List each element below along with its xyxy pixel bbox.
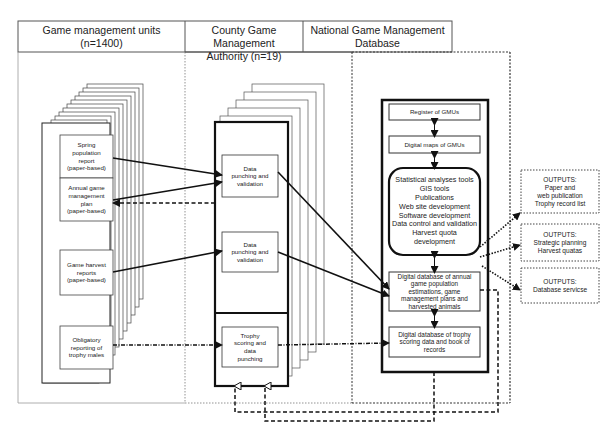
header-line: National Game Management bbox=[310, 24, 444, 36]
header-line: Database bbox=[355, 37, 400, 49]
data-punching-box-1: Datapunching andvalidation bbox=[222, 155, 278, 197]
column-header-gmu: Game management units (n=1400) bbox=[18, 24, 185, 50]
trophy-database-box: Digital database of trophyscoring data a… bbox=[389, 327, 480, 357]
digital-maps-box: Digital maps of GMUs bbox=[389, 136, 480, 153]
trophy-scoring-box: Trophyscoring anddatapunching bbox=[222, 327, 278, 367]
header-line: Game management units bbox=[43, 24, 161, 36]
trophy-males-reporting-box: Obligatoryreporting oftrophy males bbox=[60, 326, 113, 369]
game-harvest-reports-box: Game harvestreports(paper-based) bbox=[60, 250, 113, 295]
annual-database-box: Digital database of annualgame populatio… bbox=[389, 272, 480, 311]
column-header-national: National Game Management Database bbox=[303, 24, 452, 50]
output-database-services-box: OUTPUTS:Database servicse bbox=[521, 268, 599, 303]
register-of-gmus-box: Register of GMUs bbox=[389, 104, 480, 120]
header-line: (n=1400) bbox=[80, 37, 122, 49]
output-publication-box: OUTPUTS:Paper andweb publicationTrophy r… bbox=[521, 170, 599, 213]
output-planning-box: OUTPUTS:Strategic planningHarvest quatas bbox=[521, 224, 599, 261]
spring-population-report-box: Springpopulationreport(paper-based) bbox=[60, 135, 113, 178]
header-line: County Game Management bbox=[212, 24, 277, 49]
annual-management-plan-box: Annual gamemanagementplan(paper-based) bbox=[60, 178, 113, 221]
data-punching-box-2: Datapunching andvalidation bbox=[222, 232, 278, 272]
column-header-county: County Game Management Authority (n=19) bbox=[185, 24, 303, 63]
tools-box: Statistical analyses toolsGIS toolsPubli… bbox=[389, 168, 480, 255]
header-line: Authority (n=19) bbox=[207, 50, 282, 62]
